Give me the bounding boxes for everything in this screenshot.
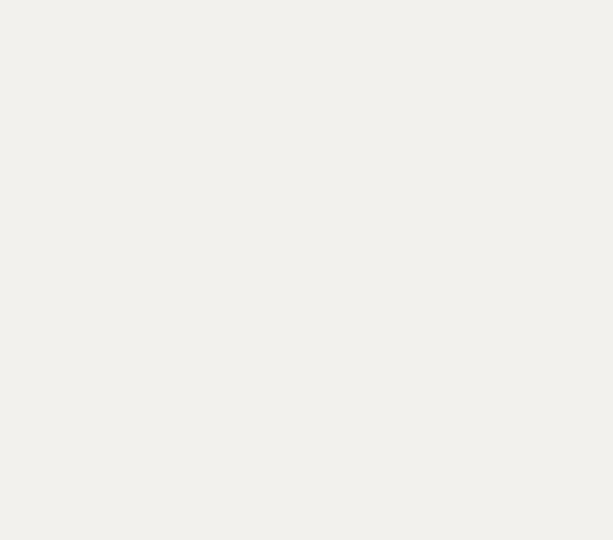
figure bbox=[0, 0, 613, 540]
